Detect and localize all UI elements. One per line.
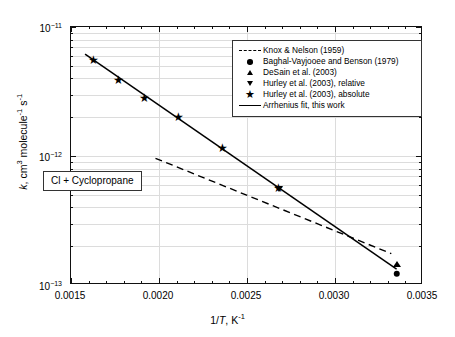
- data-point-star: ★: [173, 111, 184, 123]
- legend-item: ★Hurley et al. (2003), absolute: [237, 90, 417, 101]
- legend-item: Hurley et al. (2003), relative: [237, 79, 417, 90]
- y-tick-label: 10−12: [0, 150, 62, 163]
- legend-label: Baghal-Vayjooee and Benson (1979): [263, 57, 398, 66]
- legend-label: DeSain et al. (2003): [263, 68, 337, 77]
- annotation-label: Cl + Cyclopropane: [43, 171, 142, 191]
- y-axis-title-part2: molecule: [17, 115, 29, 160]
- star-marker-icon: ★: [245, 90, 255, 99]
- legend-key: [237, 46, 263, 56]
- legend-item: DeSain et al. (2003): [237, 68, 417, 79]
- y-axis-title: k, cm3 molecule-1 s-1: [15, 32, 29, 252]
- legend-key: [237, 79, 263, 89]
- x-axis-title: 1/T, K-1: [0, 312, 455, 326]
- legend-label: Knox & Nelson (1959): [263, 46, 344, 55]
- legend-key: [237, 101, 263, 111]
- data-point-star: ★: [139, 92, 150, 104]
- data-point-star: ★: [88, 54, 99, 66]
- legend-label: Hurley et al. (2003), relative: [263, 79, 365, 88]
- triangle-up-marker-icon: [247, 70, 253, 75]
- legend-key: [237, 57, 263, 67]
- figure-arrhenius-plot: ★★★★★★ 10−1110−1210−13 0.00150.00200.002…: [0, 0, 455, 337]
- y-axis-title-sup1: 3: [15, 160, 24, 164]
- legend-key: [237, 68, 263, 78]
- dashed-line-icon: [239, 50, 261, 51]
- triangle-down-marker-icon: [247, 81, 253, 86]
- data-point-star: ★: [113, 74, 124, 86]
- x-tick-label: 0.0015: [55, 291, 86, 301]
- knox-nelson-dashed-line: [155, 158, 391, 253]
- y-axis-title-variable: k: [17, 184, 29, 189]
- y-axis-title-sup3: -1: [15, 94, 24, 101]
- legend-item: Knox & Nelson (1959): [237, 46, 417, 57]
- legend-label: Arrhenius fit, this work: [263, 101, 345, 110]
- y-tick-label: 10−13: [0, 279, 62, 292]
- data-point-circle: [393, 271, 400, 278]
- x-tick-label: 0.0025: [231, 291, 262, 301]
- data-point-star: ★: [217, 142, 228, 154]
- y-axis-title-part3: s: [17, 101, 29, 109]
- data-point-triangle-up: [393, 261, 401, 267]
- y-axis-title-sup2: -1: [15, 109, 24, 116]
- circle-marker-icon: [247, 59, 253, 65]
- legend-item: Arrhenius fit, this work: [237, 101, 417, 112]
- legend: Knox & Nelson (1959)Baghal-Vayjooee and …: [232, 40, 422, 117]
- x-axis-title-unit: , K: [225, 314, 238, 326]
- x-axis-title-prefix: 1/: [210, 314, 219, 326]
- legend-label: Hurley et al. (2003), absolute: [263, 90, 370, 99]
- legend-key: ★: [237, 90, 263, 100]
- x-axis-title-exponent: -1: [238, 312, 245, 321]
- x-tick-label: 0.0030: [319, 291, 350, 301]
- data-point-star: ★: [273, 182, 284, 194]
- y-tick-label: 10−11: [0, 21, 62, 34]
- x-tick-label: 0.0035: [407, 291, 438, 301]
- y-axis-title-part1: , cm: [17, 165, 29, 185]
- legend-item: Baghal-Vayjooee and Benson (1979): [237, 57, 417, 68]
- solid-line-icon: [239, 105, 261, 106]
- x-tick-label: 0.0020: [143, 291, 174, 301]
